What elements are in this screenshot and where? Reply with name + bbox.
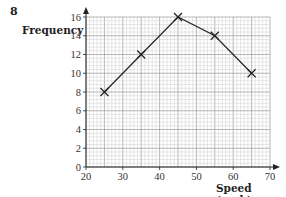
x-tick-label: 30 [118,171,129,182]
y-tick-label: 4 [76,124,82,135]
y-tick-label: 6 [76,105,81,116]
y-axis-arrow-icon [83,7,89,14]
y-tick-label: 8 [76,87,81,98]
y-tick-label: 10 [71,68,82,79]
x-tick-label: 50 [191,171,202,182]
x-axis-arrow-icon [273,164,280,170]
y-tick-label: 2 [76,143,81,154]
y-tick-label: 16 [71,12,82,23]
x-tick-label: 40 [154,171,165,182]
x-tick-label: 60 [228,171,239,182]
frequency-polygon-chart: 0246810121416203040506070 [0,0,286,197]
x-tick-label: 70 [265,171,276,182]
grid [86,17,270,167]
y-tick-label: 12 [71,49,82,60]
x-tick-label: 20 [81,171,92,182]
y-tick-label: 14 [71,30,82,41]
